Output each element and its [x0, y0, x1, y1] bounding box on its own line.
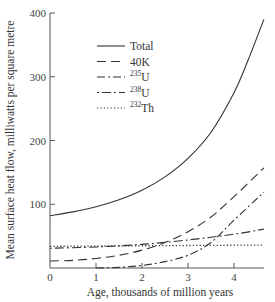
y-tick-label: 400 — [30, 7, 47, 19]
legend-label-238u: 238U — [130, 85, 150, 99]
heat-flow-chart: 10020030040001234 Total40K235U238U232Th … — [0, 0, 275, 302]
legend-label-total: Total — [130, 40, 153, 52]
series-lines — [50, 19, 264, 268]
y-tick-label: 100 — [30, 198, 47, 210]
legend: Total40K235U238U232Th — [97, 40, 154, 114]
legend-label-232th: 232Th — [130, 100, 154, 114]
series-line-232th — [50, 245, 264, 246]
x-tick-label: 0 — [47, 271, 53, 283]
y-tick-label: 200 — [30, 135, 47, 147]
x-axis-label: Age, thousands of million years — [87, 286, 234, 299]
x-tick-label: 2 — [139, 271, 145, 283]
axes — [50, 13, 264, 268]
series-line-238u — [50, 229, 264, 248]
x-tick-label: 3 — [185, 271, 191, 283]
y-tick-label: 300 — [30, 71, 47, 83]
legend-label-235u: 235U — [130, 69, 150, 83]
legend-label-40k: 40K — [130, 56, 151, 68]
series-line-235u — [96, 192, 264, 268]
y-axis-label: Mean surface heat flow, milliwatts per s… — [4, 21, 17, 260]
x-tick-label: 4 — [231, 271, 237, 283]
x-tick-label: 1 — [93, 271, 99, 283]
series-line-total — [50, 19, 264, 215]
